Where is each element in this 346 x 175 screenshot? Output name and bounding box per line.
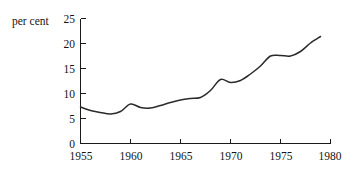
y-tick-label-5: 5: [69, 113, 75, 125]
x-tick-label-1965: 1965: [170, 150, 193, 162]
line-chart: per cent 25 20 15 10 5 0 1955 1960 1965 …: [0, 0, 346, 175]
chart-page: per cent 25 20 15 10 5 0 1955 1960 1965 …: [0, 0, 346, 175]
data-series-line: [81, 37, 321, 115]
y-tick-label-0: 0: [69, 138, 75, 150]
y-tick-label-10: 10: [64, 88, 76, 100]
x-tick-label-1970: 1970: [220, 150, 243, 162]
x-tick-label-1980: 1980: [319, 150, 342, 162]
y-tick-label-20: 20: [64, 38, 76, 50]
x-tick-label-1960: 1960: [120, 150, 143, 162]
y-axis-title: per cent: [12, 15, 50, 28]
y-tick-label-25: 25: [64, 13, 76, 25]
x-tick-label-1975: 1975: [270, 150, 293, 162]
y-tick-label-15: 15: [64, 63, 76, 75]
x-tick-label-1955: 1955: [70, 150, 93, 162]
